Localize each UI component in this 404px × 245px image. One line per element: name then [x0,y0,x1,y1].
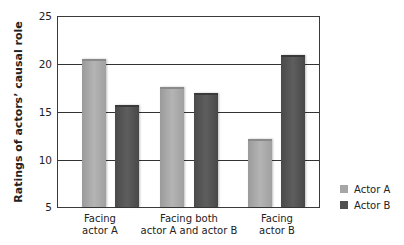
bar-chart: Ratings of actors’ causal role 25 20 15 … [0,0,404,245]
bar-facing-both-actor-b [194,93,218,207]
plot-area [57,16,320,208]
bar-facing-a-actor-b [115,105,139,207]
bar-facing-b-actor-a [248,139,272,208]
y-tick-10: 10 [22,154,52,166]
legend-swatch-actor-a [340,185,348,193]
y-tick-5: 5 [22,201,52,213]
legend-swatch-actor-b [340,201,348,209]
legend: Actor A Actor B [340,181,390,213]
x-label-facing-both: Facing both actor A and actor B [141,213,238,237]
bar-facing-both-actor-a [160,87,184,207]
y-tick-20: 20 [22,58,52,70]
y-tick-25: 25 [22,10,52,22]
bar-facing-b-actor-b [281,55,305,207]
legend-item-actor-b: Actor B [340,197,390,213]
bar-facing-a-actor-a [82,59,106,207]
x-label-facing-a: Facing actor A [82,213,118,237]
y-tick-15: 15 [22,106,52,118]
x-label-facing-b: Facing actor B [259,213,295,237]
legend-item-actor-a: Actor A [340,181,390,197]
